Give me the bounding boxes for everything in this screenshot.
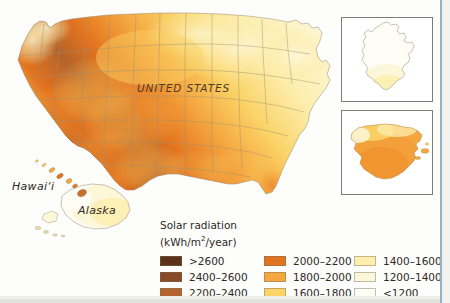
legend-item: 1200–1400 — [354, 271, 438, 283]
legend-unit-suffix: /year) — [205, 235, 236, 247]
legend-label: 1800–2000 — [293, 271, 352, 283]
spain-solar-map — [342, 111, 432, 194]
legend-columns: >2600 2400–2600 2200–2400 2000–2200 — [160, 255, 438, 299]
legend: Solar radiation (kWh/m2/year) >2600 2400… — [160, 219, 438, 299]
legend-column-high: >2600 2400–2600 2200–2400 — [160, 255, 264, 299]
legend-label: 1200–1400 — [383, 271, 442, 283]
spain-inset-panel: SPAIN — [341, 110, 433, 195]
contiguous-us-shape — [0, 0, 340, 210]
legend-label: 2000–2200 — [293, 255, 352, 267]
hawaii-label: Hawai‘i — [12, 180, 54, 193]
legend-swatch — [264, 256, 286, 266]
legend-label: >2600 — [189, 255, 225, 267]
legend-column-mid: 2000–2200 1800–2000 1600–1800 — [264, 255, 354, 299]
legend-label: 2400–2600 — [189, 271, 248, 283]
legend-swatch — [264, 272, 286, 282]
germany-solar-map — [342, 18, 432, 101]
legend-swatch — [160, 256, 182, 266]
legend-title-line-2: (kWh/m2/year) — [160, 233, 438, 249]
page-bottom-edge — [0, 299, 442, 303]
page-right-margin — [442, 0, 450, 303]
legend-item: 1400–1600 — [354, 255, 438, 267]
legend-item: 1800–2000 — [264, 271, 354, 283]
legend-swatch — [354, 256, 376, 266]
legend-unit-prefix: (kWh/m — [160, 235, 201, 247]
united-states-label: UNITED STATES — [137, 82, 230, 94]
legend-item: 2400–2600 — [160, 271, 264, 283]
legend-column-low: 1400–1600 1200–1400 <1200 — [354, 255, 438, 299]
legend-swatch — [160, 272, 182, 282]
legend-swatch — [354, 272, 376, 282]
germany-inset-panel: GERMANY — [341, 17, 433, 102]
legend-title-line-1: Solar radiation — [160, 219, 438, 233]
alaska-label: Alaska — [78, 204, 116, 217]
solar-radiation-map-figure: GERMANY — [0, 0, 450, 303]
legend-item: 2000–2200 — [264, 255, 354, 267]
legend-label: 1400–1600 — [383, 255, 442, 267]
legend-item: >2600 — [160, 255, 264, 267]
